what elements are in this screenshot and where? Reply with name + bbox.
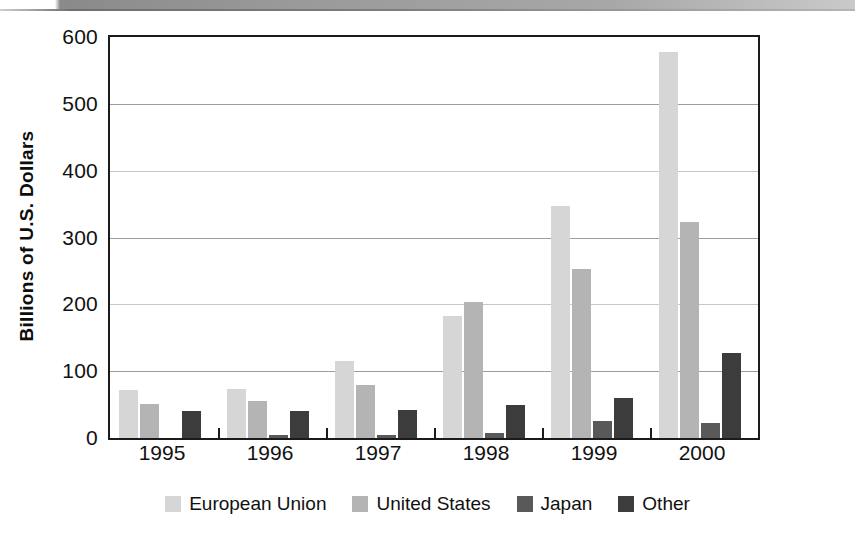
legend-label: Japan [541, 493, 593, 515]
bar-chart-figure: Billions of U.S. Dollars 010020030040050… [0, 11, 855, 538]
bar-1999-japan [593, 421, 612, 438]
x-tick-label-1999: 1999 [571, 441, 618, 465]
x-tick-label-2000: 2000 [679, 441, 726, 465]
x-tickmark [434, 428, 436, 439]
x-tick-label-1996: 1996 [247, 441, 294, 465]
bar-1996-japan [269, 435, 288, 438]
bar-2000-other [722, 353, 741, 438]
y-tick-label: 300 [62, 226, 98, 250]
bars-layer [110, 37, 758, 438]
bar-group-2000 [650, 37, 758, 438]
legend-swatch-icon [517, 496, 533, 512]
bar-group-1997 [326, 37, 434, 438]
chart-legend: European UnionUnited StatesJapanOther [0, 493, 855, 515]
y-tick-label: 600 [62, 25, 98, 49]
bar-1997-japan [377, 435, 396, 438]
bar-group-1995 [110, 37, 218, 438]
bar-1998-japan [485, 433, 504, 438]
x-tickmark [218, 428, 220, 439]
bar-1995-european-union [119, 390, 138, 438]
bar-1999-united-states [572, 269, 591, 438]
legend-label: United States [376, 493, 490, 515]
plot-area: 0100200300400500600 [108, 35, 760, 440]
y-tick-label: 200 [62, 292, 98, 316]
bar-1998-united-states [464, 302, 483, 438]
x-tickmark [650, 428, 652, 439]
x-tickmark [542, 428, 544, 439]
y-tick-label: 100 [62, 359, 98, 383]
legend-label: European Union [189, 493, 326, 515]
bar-group-1996 [218, 37, 326, 438]
bar-1996-united-states [248, 401, 267, 438]
bar-1996-european-union [227, 389, 246, 438]
bar-1998-european-union [443, 316, 462, 438]
y-tick-label: 0 [86, 426, 98, 450]
bar-1997-other [398, 410, 417, 438]
bar-2000-united-states [680, 222, 699, 438]
y-axis-title: Billions of U.S. Dollars [14, 35, 40, 436]
bar-2000-european-union [659, 52, 678, 438]
x-tickmark [326, 428, 328, 439]
legend-item-other[interactable]: Other [618, 493, 690, 515]
legend-item-united-states[interactable]: United States [352, 493, 490, 515]
y-tick-label: 500 [62, 92, 98, 116]
legend-swatch-icon [165, 496, 181, 512]
legend-item-japan[interactable]: Japan [517, 493, 593, 515]
legend-label: Other [642, 493, 690, 515]
bar-1997-european-union [335, 361, 354, 438]
x-tick-label-1998: 1998 [463, 441, 510, 465]
bar-1995-united-states [140, 404, 159, 438]
x-tick-label-1995: 1995 [139, 441, 186, 465]
y-tick-label: 400 [62, 159, 98, 183]
scan-artifact-band [0, 0, 855, 9]
bar-1998-other [506, 405, 525, 438]
x-tick-label-1997: 1997 [355, 441, 402, 465]
bar-1995-other [182, 411, 201, 438]
bar-1999-european-union [551, 206, 570, 438]
legend-swatch-icon [618, 496, 634, 512]
legend-swatch-icon [352, 496, 368, 512]
bar-1996-other [290, 411, 309, 438]
bar-1997-united-states [356, 385, 375, 438]
legend-item-european-union[interactable]: European Union [165, 493, 326, 515]
bar-group-1998 [434, 37, 542, 438]
bar-2000-japan [701, 423, 720, 438]
bar-group-1999 [542, 37, 650, 438]
bar-1999-other [614, 398, 633, 438]
y-axis-title-label: Billions of U.S. Dollars [16, 130, 38, 341]
